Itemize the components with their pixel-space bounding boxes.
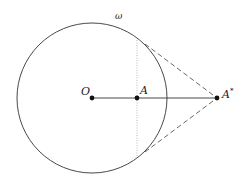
point-A-star [215, 96, 220, 101]
label-A-star-base: A [222, 88, 230, 101]
label-A-star-sup: * [230, 87, 234, 95]
label-A: A [140, 85, 148, 96]
tangent-lower [145, 98, 217, 152]
tangent-upper [145, 44, 217, 98]
label-O: O [81, 86, 90, 97]
point-O [90, 96, 95, 101]
inversion-diagram [0, 0, 245, 186]
label-A-star: A* [222, 88, 233, 100]
point-A [135, 96, 140, 101]
label-omega: ω [115, 12, 122, 21]
